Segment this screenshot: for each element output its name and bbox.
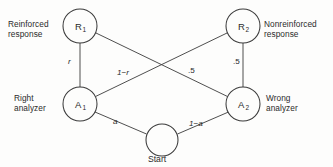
edge-weight-start-a1: a <box>113 117 118 126</box>
label-wrong-analyzer: Wrong analyzer <box>266 93 298 114</box>
diagram-canvas: R 1 R 2 A 1 A 2 Reinforced response Nonr… <box>0 0 333 167</box>
node-a2-subscript: 2 <box>246 104 250 111</box>
label-right-analyzer-line2: analyzer <box>14 103 46 113</box>
edge-weight-a2-r2: .5 <box>233 57 240 66</box>
label-right-analyzer: Right analyzer <box>14 93 46 114</box>
edge-weight-start-a2: 1−a <box>189 119 203 128</box>
node-r1-label: R <box>75 21 82 32</box>
label-wrong-analyzer-line2: analyzer <box>266 103 298 113</box>
caption-start: Start <box>148 154 166 164</box>
label-wrong-analyzer-line1: Wrong <box>266 93 298 103</box>
edge-weight-a1-r1: r <box>68 57 71 66</box>
node-r2-subscript: 2 <box>246 26 250 33</box>
node-a1-subscript: 1 <box>83 104 87 111</box>
label-nonreinforced-response-line1: Nonreinforced <box>264 19 317 29</box>
label-right-analyzer-line1: Right <box>14 93 46 103</box>
label-reinforced-response: Reinforced response <box>8 19 49 40</box>
node-start[interactable] <box>146 124 178 156</box>
edge-weight-a2-r1: .5 <box>188 66 195 75</box>
node-a2-label: A <box>238 99 245 110</box>
edge-start-a1 <box>95 112 147 134</box>
edge-weight-a1-r2: 1−r <box>117 68 129 77</box>
label-reinforced-response-line2: response <box>8 29 49 39</box>
edge-start-a2 <box>178 112 229 134</box>
label-nonreinforced-response-line2: response <box>264 29 317 39</box>
label-nonreinforced-response: Nonreinforced response <box>264 19 317 40</box>
node-r2-label: R <box>238 21 245 32</box>
label-reinforced-response-line1: Reinforced <box>8 19 49 29</box>
node-a1-label: A <box>75 99 82 110</box>
node-r1-subscript: 1 <box>83 26 87 33</box>
